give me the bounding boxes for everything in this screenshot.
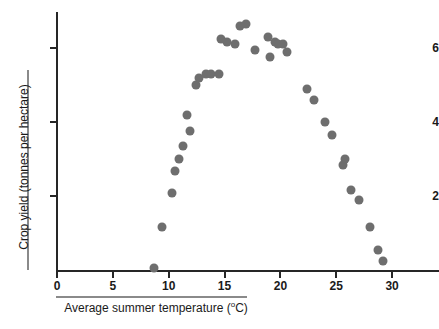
data-point: [174, 155, 183, 164]
data-point: [327, 130, 336, 139]
x-axis-title: Average summer temperature (oC): [64, 301, 248, 315]
data-point: [303, 84, 312, 93]
data-point: [309, 95, 318, 104]
data-point: [321, 118, 330, 127]
degree-symbol: o: [231, 300, 235, 309]
x-axis-title-wrapper: Average summer temperature (oC): [56, 298, 256, 316]
data-point: [365, 223, 374, 232]
scatter-chart-figure: Crop yield (tonnes per hectare) 24605101…: [0, 0, 439, 329]
data-point: [230, 40, 239, 49]
plot-area: [0, 0, 439, 329]
data-point: [179, 142, 188, 151]
data-point: [266, 53, 275, 62]
data-point: [214, 69, 223, 78]
data-point: [250, 45, 259, 54]
data-point: [341, 155, 350, 164]
data-point: [150, 264, 159, 273]
data-point: [182, 110, 191, 119]
data-point: [157, 223, 166, 232]
data-point: [373, 245, 382, 254]
data-point: [171, 167, 180, 176]
data-point: [346, 186, 355, 195]
data-point: [241, 19, 250, 28]
data-point: [283, 47, 292, 56]
data-point: [379, 256, 388, 265]
data-point: [168, 189, 177, 198]
data-point: [354, 195, 363, 204]
data-point: [185, 127, 194, 136]
